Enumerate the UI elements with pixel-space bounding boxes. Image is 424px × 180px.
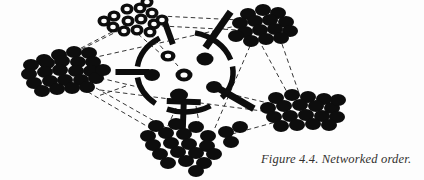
cluster-top-rings-node-8-hole bbox=[151, 22, 156, 26]
core-node-2 bbox=[197, 53, 214, 66]
cluster-left-node-24 bbox=[95, 64, 111, 76]
core-nodes-layer bbox=[144, 51, 222, 102]
link-core-left-down bbox=[98, 86, 126, 96]
cluster-right-node-16 bbox=[289, 119, 305, 131]
cluster-top-rings-node-6-hole bbox=[125, 19, 130, 23]
cluster-right-node-17 bbox=[305, 118, 321, 130]
cluster-top-rings-node-4-hole bbox=[149, 11, 154, 15]
cluster-top-rings-node-12-hole bbox=[159, 18, 164, 22]
cluster-right-node-18 bbox=[321, 119, 337, 131]
cluster-top-rings-node-7-hole bbox=[138, 17, 143, 21]
cluster-top-right-node-12 bbox=[243, 35, 259, 47]
cluster-left-node-23 bbox=[79, 81, 95, 93]
cluster-bottom-node-18 bbox=[160, 157, 176, 169]
cluster-top-right-node-15 bbox=[228, 30, 244, 42]
link-topright-to-right-2 bbox=[262, 46, 288, 94]
core-node-4-hole bbox=[180, 72, 187, 77]
cluster-right-node-2 bbox=[284, 89, 300, 101]
cluster-left-node-21 bbox=[49, 83, 65, 95]
figure-networked-order: Figure 4.4. Networked order. bbox=[0, 0, 424, 180]
cluster-bottom-node-21 bbox=[188, 165, 204, 177]
core-node-5 bbox=[170, 89, 188, 102]
core-node-1-hole bbox=[165, 54, 171, 58]
cluster-top-rings-node-14-hole bbox=[144, 0, 149, 4]
core-node-6 bbox=[206, 81, 222, 93]
cluster-bottom-node-22 bbox=[232, 121, 248, 133]
link-left-to-bottom-2 bbox=[88, 92, 150, 128]
arc-bottom bbox=[167, 106, 210, 112]
cluster-left-node-20 bbox=[34, 85, 50, 97]
cluster-top-rings-node-3-hole bbox=[137, 6, 142, 10]
figure-caption: Figure 4.4. Networked order. bbox=[261, 152, 417, 166]
cluster-top-rings-node-10-hole bbox=[134, 28, 139, 32]
cluster-left-node-22 bbox=[64, 82, 80, 94]
link-top-to-topright-2 bbox=[162, 26, 238, 30]
cluster-top-rings-node-2-hole bbox=[124, 7, 129, 11]
cluster-right bbox=[260, 89, 346, 132]
cluster-top-right-node-14 bbox=[273, 32, 289, 44]
cluster-top-rings-node-11-hole bbox=[147, 30, 152, 34]
cluster-top-rings-node-5-hole bbox=[110, 25, 115, 29]
cluster-bottom bbox=[140, 118, 248, 177]
arc-left-lower bbox=[137, 78, 155, 104]
cluster-top-rings-node-13-hole bbox=[101, 19, 106, 23]
cluster-top-right bbox=[228, 4, 298, 47]
cluster-bottom-node-19 bbox=[178, 155, 194, 167]
cluster-bottom-node-13 bbox=[223, 136, 239, 148]
cluster-right-node-19 bbox=[330, 94, 346, 106]
spoke-bottom-crossbar bbox=[167, 101, 201, 102]
cluster-top-rings bbox=[98, 0, 169, 38]
cluster-top-rings-node-1-hole bbox=[111, 14, 116, 18]
cluster-right-node-15 bbox=[273, 120, 289, 132]
cluster-top-rings-node-9-hole bbox=[121, 29, 126, 33]
arc-left-upper bbox=[137, 38, 159, 66]
core-node-3 bbox=[144, 69, 160, 81]
cluster-top-right-node-13 bbox=[258, 33, 274, 45]
